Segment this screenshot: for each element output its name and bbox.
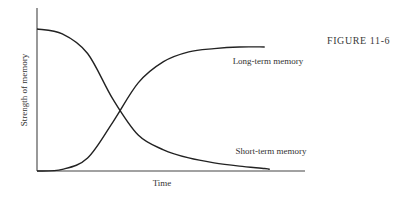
series-line-long-term-memory — [37, 47, 265, 171]
y-axis-label: Strength of memory — [19, 53, 29, 126]
x-axis-label: Time — [153, 178, 172, 188]
figure-label: FIGURE 11-6 — [327, 35, 390, 46]
memory-strength-chart: Time Strength of memory Long-term memory… — [0, 0, 416, 199]
series-label-short-term: Short-term memory — [235, 146, 307, 156]
series-label-long-term: Long-term memory — [233, 56, 304, 66]
